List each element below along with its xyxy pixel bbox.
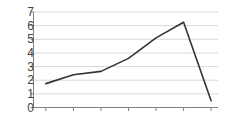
y-axis-tick-label: 7: [12, 6, 34, 18]
line-chart: 76543210: [0, 0, 230, 125]
data-series-line: [46, 22, 211, 100]
y-axis-tick-label: 5: [12, 33, 34, 45]
gridline-group: [34, 12, 219, 94]
chart-plot-area: [0, 0, 230, 125]
y-axis-tick-label: 4: [12, 47, 34, 59]
y-axis-tick-label: 1: [12, 88, 34, 100]
y-axis-tick-label: 3: [12, 61, 34, 73]
y-axis-tick-label: 2: [12, 74, 34, 86]
y-axis-tick-labels: 76543210: [0, 0, 34, 125]
y-axis-tick-label: 6: [12, 20, 34, 32]
y-axis-tick-label: 0: [12, 102, 34, 114]
